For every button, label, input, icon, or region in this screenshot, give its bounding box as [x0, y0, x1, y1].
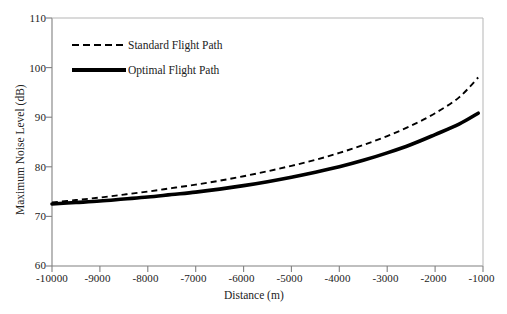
noise-level-chart: 110 100 90 80 70 60 -10000 -9000 -8000 -… — [0, 0, 507, 314]
y-tick-marks — [46, 18, 52, 266]
chart-svg — [0, 0, 507, 314]
series-line-optimal-flight-path — [52, 113, 478, 204]
x-tick-marks — [52, 266, 483, 272]
